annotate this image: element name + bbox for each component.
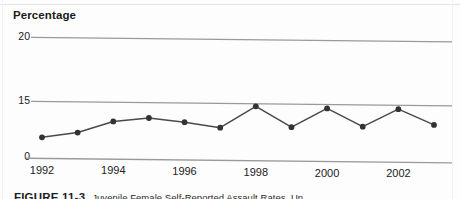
data-point-marker: 2000: 15.3 (324, 106, 330, 112)
data-point-marker: 1996: 16.5 (182, 119, 188, 125)
data-point-marker: 1993: 17.4 (75, 130, 81, 136)
gridline-20 (31, 37, 452, 42)
x-axis-tick-label-1992: 1992 (30, 164, 54, 176)
figure-container: Percentage 20 15 0 1992: 17.81993: 17.41… (0, 0, 460, 199)
axis-baseline-0 (26, 158, 452, 163)
x-axis-tick-label-1996: 1996 (172, 165, 196, 177)
x-axis-tick-label-1998: 1998 (244, 166, 268, 178)
data-point-marker: 1992: 17.8 (39, 134, 45, 140)
data-point-marker: 1998: 15.2 (253, 103, 259, 109)
data-point-marker: 1995: 16.2 (146, 115, 152, 121)
data-point-marker: 1994: 16.5 (110, 119, 116, 125)
data-markers-group: 1992: 17.81993: 17.41994: 16.51995: 16.2… (39, 103, 437, 140)
data-series-group (42, 106, 434, 137)
x-axis-tick-label-2000: 2000 (315, 167, 339, 179)
x-axis-tick-label-1994: 1994 (101, 164, 125, 176)
gridlines-group (26, 37, 452, 163)
data-point-marker: 2001: 16.7 (360, 124, 366, 130)
gridline-15 (31, 101, 452, 106)
data-point-marker: 1999: 16.8 (289, 124, 295, 130)
figure-caption-text: Juvenile Female Self-Reported Assault Ra… (92, 192, 303, 199)
figure-caption-label: FIGURE 11-3 (14, 191, 85, 199)
data-point-marker: 2002: 15.3 (395, 106, 401, 112)
figure-caption: FIGURE 11-3Juvenile Female Self-Reported… (14, 187, 454, 199)
data-point-marker: 2003: 16.5 (431, 122, 437, 128)
x-axis-tick-label-2002: 2002 (386, 167, 410, 179)
data-line (42, 106, 434, 137)
data-point-marker: 1997: 16.9 (217, 125, 223, 131)
